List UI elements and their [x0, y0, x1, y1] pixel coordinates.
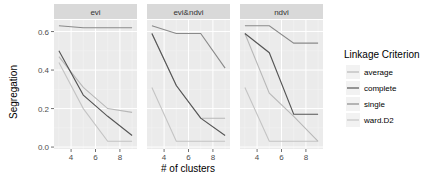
x-tick-label: 4	[255, 153, 260, 162]
chart-panels: evi468evi&ndvi468ndvi468	[54, 4, 323, 162]
panel-evi-and-ndvi: evi&ndvi468	[147, 4, 230, 162]
x-tick-label: 8	[211, 153, 216, 162]
x-tick-label: 6	[186, 153, 191, 162]
y-tick-label: 0.2	[38, 105, 50, 114]
y-tick-label: 0.0	[38, 143, 50, 152]
y-tick-label: 0.4	[38, 66, 50, 75]
legend-item-single: single	[364, 100, 385, 109]
x-tick-label: 8	[118, 153, 123, 162]
y-axis: 0.00.20.40.6	[38, 28, 54, 153]
x-tick-label: 6	[279, 153, 284, 162]
legend-item-average: average	[364, 68, 393, 77]
faceted-line-chart: evi468evi&ndvi468ndvi468 0.00.20.40.6 Se…	[0, 0, 441, 182]
x-tick-label: 4	[69, 153, 74, 162]
facet-label: ndvi	[274, 8, 289, 17]
legend: Linkage Criterion averagecompletesinglew…	[344, 49, 420, 127]
facet-label: evi&ndvi	[173, 8, 203, 17]
panel-evi: evi468	[54, 4, 137, 162]
panel-ndvi: ndvi468	[240, 4, 323, 162]
facet-label: evi	[90, 8, 100, 17]
legend-item-ward-D2: ward.D2	[363, 116, 394, 125]
y-tick-label: 0.6	[38, 28, 50, 37]
x-tick-label: 8	[304, 153, 309, 162]
y-axis-title: Segregation	[8, 65, 19, 119]
legend-title: Linkage Criterion	[344, 49, 420, 60]
x-tick-label: 6	[93, 153, 98, 162]
legend-item-complete: complete	[364, 84, 397, 93]
x-axis-title: # of clusters	[161, 163, 215, 174]
x-tick-label: 4	[162, 153, 167, 162]
